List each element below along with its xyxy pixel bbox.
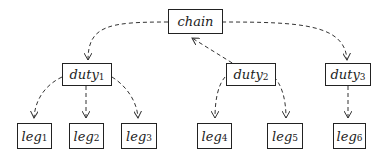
edge-chain-duty3 <box>222 22 347 60</box>
node-leg6: leg6 <box>333 123 366 149</box>
node-duty1: duty1 <box>62 63 112 86</box>
node-chain: chain <box>168 9 223 34</box>
edge-duty2-leg4 <box>215 77 225 118</box>
node-subscript: 3 <box>146 133 152 143</box>
edge-duty1-leg3 <box>112 77 138 118</box>
node-label: duty <box>331 67 360 82</box>
node-label: duty <box>70 67 99 82</box>
node-leg5: leg5 <box>267 123 303 149</box>
node-label: leg <box>337 129 357 144</box>
node-leg4: leg4 <box>197 123 232 149</box>
node-subscript: 1 <box>99 72 105 82</box>
node-leg2: leg2 <box>69 123 104 149</box>
node-subscript: 2 <box>263 72 269 82</box>
node-label: leg <box>126 129 146 144</box>
node-label: leg <box>22 129 42 144</box>
node-subscript: 3 <box>360 72 366 82</box>
node-subscript: 5 <box>292 133 298 143</box>
node-duty2: duty2 <box>226 63 276 86</box>
node-subscript: 1 <box>42 133 48 143</box>
node-leg1: leg1 <box>17 123 52 149</box>
node-label: leg <box>202 129 222 144</box>
node-label: leg <box>74 129 94 144</box>
node-label: chain <box>178 14 214 29</box>
edge-chain-duty1 <box>88 22 168 60</box>
node-label: duty <box>234 67 263 82</box>
node-leg3: leg3 <box>121 123 157 149</box>
edge-duty1-leg1 <box>34 77 62 118</box>
node-subscript: 6 <box>357 133 363 143</box>
node-subscript: 4 <box>222 133 228 143</box>
node-label: leg <box>272 129 292 144</box>
node-duty3: duty3 <box>325 63 371 86</box>
node-subscript: 2 <box>94 133 100 143</box>
